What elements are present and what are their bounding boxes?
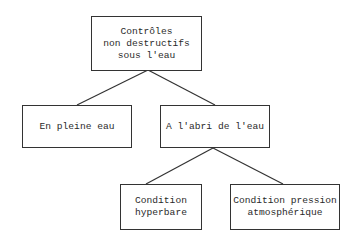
node-sheltered: A l'abri de l'eau: [160, 105, 270, 148]
edge-sheltered-atmospheric: [213, 148, 283, 184]
edge-sheltered-hyperbaric: [146, 148, 213, 184]
edge-root-open-water: [77, 70, 148, 105]
edge-root-sheltered: [148, 70, 215, 105]
tree-diagram: Contrôles non destructifs sous l'eau En …: [0, 0, 358, 242]
node-hyperbaric: Condition hyperbare: [120, 184, 202, 230]
node-open-water: En pleine eau: [22, 105, 132, 148]
node-atmospheric: Condition pression atmosphérique: [230, 184, 340, 230]
node-root: Contrôles non destructifs sous l'eau: [91, 16, 202, 71]
